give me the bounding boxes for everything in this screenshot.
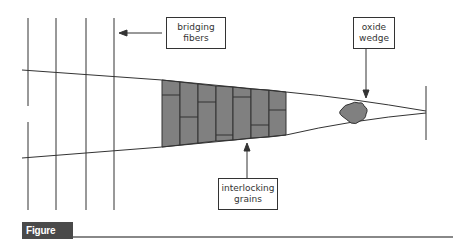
figure-rule-divider <box>73 236 453 238</box>
grain-col-2 <box>180 82 198 145</box>
arrow-grains-head <box>244 143 250 151</box>
grain-col-7 <box>269 90 286 137</box>
callout-interlocking-grains-line1: interlocking <box>221 183 274 194</box>
callout-bridging-fibers-line2: fibers <box>183 33 208 44</box>
arrow-bridging-head <box>119 30 127 36</box>
grain-col-6 <box>251 89 269 138</box>
callout-oxide-wedge-line1: oxide <box>362 22 386 33</box>
arrow-oxide-head <box>363 90 369 98</box>
callout-oxide-wedge: oxide wedge <box>353 17 395 49</box>
bridging-fibers <box>28 18 114 210</box>
callout-interlocking-grains: interlocking grains <box>218 178 278 210</box>
grain-col-5 <box>233 87 251 140</box>
callout-bridging-fibers-line1: bridging <box>177 22 214 33</box>
grain-col-1 <box>162 80 180 147</box>
figure-label: Figure 8.26 <box>22 222 73 239</box>
callout-interlocking-grains-line2: grains <box>234 194 262 205</box>
grain-col-4 <box>216 86 233 141</box>
callout-oxide-wedge-line2: wedge <box>359 33 389 44</box>
grain-col-3 <box>198 84 216 143</box>
callout-bridging-fibers: bridging fibers <box>166 17 226 49</box>
